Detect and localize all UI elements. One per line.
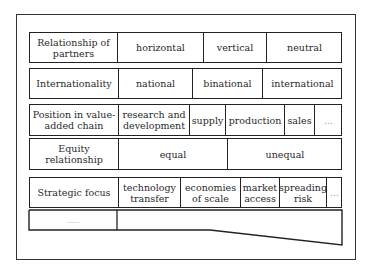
row-label-more: ..... — [29, 211, 117, 229]
open-ended-row-shape — [0, 0, 371, 272]
